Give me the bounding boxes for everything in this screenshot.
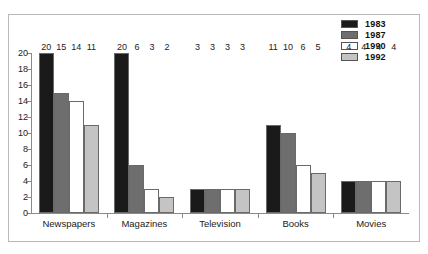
y-tick-label: 8: [23, 145, 28, 154]
legend-item-label: 1983: [365, 19, 386, 29]
bar-group: 20151411Newspapers: [39, 53, 99, 213]
bar-value-label: 11: [268, 43, 277, 52]
y-tick-label: 16: [18, 81, 28, 90]
bar-cell: 10: [281, 53, 296, 213]
bar-value-label: 11: [87, 43, 96, 52]
bar-cell: 3: [144, 53, 159, 213]
bar-value-label: 14: [71, 43, 81, 52]
bar-group-bars: 4444: [341, 53, 401, 213]
bar-value-label: 10: [283, 43, 293, 52]
x-category-label: Television: [199, 219, 241, 229]
bar-value-label: 6: [301, 43, 306, 52]
bar[interactable]: 3: [205, 189, 220, 213]
x-axis-line: [27, 213, 409, 214]
bar-group-bars: 111065: [266, 53, 326, 213]
bar-value-label: 5: [316, 43, 321, 52]
bar-group: 3333Television: [190, 53, 250, 213]
bar[interactable]: 11: [266, 125, 281, 213]
chart-frame: 1983198719901992 20181614121086420 20151…: [8, 14, 420, 242]
x-category-label: Magazines: [121, 219, 167, 229]
bar[interactable]: 4: [371, 181, 386, 213]
x-tick-mark: [182, 213, 183, 218]
bar-value-label: 3: [240, 43, 245, 52]
bar-group: 20632Magazines: [114, 53, 174, 213]
bar[interactable]: 11: [84, 125, 99, 213]
bar-cell: 20: [114, 53, 129, 213]
x-tick-mark: [333, 213, 334, 218]
bar-value-label: 3: [195, 43, 200, 52]
bar[interactable]: 4: [386, 181, 401, 213]
bar-cell: 15: [54, 53, 69, 213]
legend-swatch-icon: [341, 20, 358, 28]
bar-cell: 4: [341, 53, 356, 213]
plot-area: 20181614121086420 20151411Newspapers2063…: [31, 53, 409, 213]
y-tick-label: 10: [18, 129, 28, 138]
bar[interactable]: 4: [356, 181, 371, 213]
bar-cell: 14: [69, 53, 84, 213]
bar-value-label: 3: [225, 43, 230, 52]
bar-group-bars: 20151411: [39, 53, 99, 213]
bar-cell: 5: [311, 53, 326, 213]
bar-value-label: 4: [346, 43, 351, 52]
bar[interactable]: 3: [220, 189, 235, 213]
bar-cell: 3: [220, 53, 235, 213]
bar-cell: 6: [296, 53, 311, 213]
bar-cell: 3: [205, 53, 220, 213]
bar-value-label: 2: [164, 43, 169, 52]
bar-cell: 11: [266, 53, 281, 213]
bar[interactable]: 6: [296, 165, 311, 213]
bar-group-bars: 20632: [114, 53, 174, 213]
y-tick-label: 0: [23, 209, 28, 218]
y-tick-label: 18: [18, 65, 28, 74]
bar-value-label: 4: [391, 43, 396, 52]
bar[interactable]: 20: [114, 53, 129, 213]
bar-value-label: 20: [117, 43, 127, 52]
bar-group-bars: 3333: [190, 53, 250, 213]
bar[interactable]: 15: [54, 93, 69, 213]
y-tick-label: 4: [23, 177, 28, 186]
bar-cell: 3: [190, 53, 205, 213]
bar-cell: 6: [129, 53, 144, 213]
y-tick-label: 2: [23, 193, 28, 202]
bar[interactable]: 3: [144, 189, 159, 213]
bar[interactable]: 3: [235, 189, 250, 213]
x-category-label: Movies: [356, 219, 386, 229]
bar-value-label: 3: [210, 43, 215, 52]
bar-cell: 4: [371, 53, 386, 213]
y-tick-label: 20: [18, 49, 28, 58]
bar-cell: 2: [159, 53, 174, 213]
bar-value-label: 3: [149, 43, 154, 52]
bar-value-label: 6: [134, 43, 139, 52]
bar-value-label: 4: [361, 43, 366, 52]
bar-cell: 4: [356, 53, 371, 213]
x-category-label: Books: [282, 219, 308, 229]
y-axis-line: [31, 53, 32, 213]
x-tick-mark: [107, 213, 108, 218]
y-tick-label: 12: [18, 113, 28, 122]
legend-item[interactable]: 1983: [341, 18, 417, 29]
legend-swatch-icon: [341, 31, 358, 39]
y-tick-label: 6: [23, 161, 28, 170]
bar[interactable]: 20: [39, 53, 54, 213]
bar[interactable]: 10: [281, 133, 296, 213]
bar-cell: 11: [84, 53, 99, 213]
bar-value-label: 20: [41, 43, 51, 52]
bar-cell: 3: [235, 53, 250, 213]
bar-cell: 20: [39, 53, 54, 213]
bar[interactable]: 2: [159, 197, 174, 213]
bar[interactable]: 14: [69, 101, 84, 213]
bar-value-label: 4: [376, 43, 381, 52]
bar-value-label: 15: [56, 43, 66, 52]
bar[interactable]: 5: [311, 173, 326, 213]
legend-item-label: 1987: [365, 30, 386, 40]
bar-cell: 4: [386, 53, 401, 213]
bar[interactable]: 3: [190, 189, 205, 213]
bar[interactable]: 4: [341, 181, 356, 213]
x-tick-mark: [258, 213, 259, 218]
bar-group: 111065Books: [266, 53, 326, 213]
legend-item[interactable]: 1987: [341, 29, 417, 40]
bar[interactable]: 6: [129, 165, 144, 213]
bar-group: 4444Movies: [341, 53, 401, 213]
y-tick-label: 14: [18, 97, 28, 106]
x-category-label: Newspapers: [42, 219, 95, 229]
